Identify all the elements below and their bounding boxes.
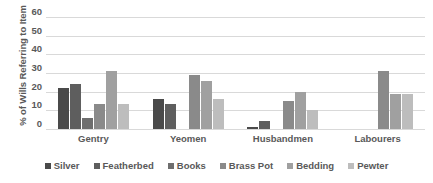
bar-chart: % of Wills Referring to Item 60504030201… xyxy=(0,0,433,183)
y-axis-tick-30: 30 xyxy=(18,63,42,73)
bar-slot xyxy=(307,17,318,129)
bar-slot xyxy=(82,17,93,129)
bar-slot xyxy=(342,17,353,129)
bar-slot xyxy=(283,17,294,129)
gridline-0 xyxy=(46,129,425,130)
legend-label-brass-pot: Brass Pot xyxy=(229,160,273,171)
bar-slot xyxy=(366,17,377,129)
bar-gentry-pewter[interactable] xyxy=(118,104,129,129)
y-axis-tick-60: 60 xyxy=(18,7,42,17)
bar-slot xyxy=(271,17,282,129)
x-axis-category-labels: GentryYeomenHusbandmenLabourers xyxy=(46,133,425,144)
bar-slot xyxy=(378,17,389,129)
bar-groups xyxy=(46,17,425,129)
bar-group-gentry xyxy=(46,17,141,129)
legend-swatch-books xyxy=(168,163,174,169)
legend-item-pewter[interactable]: Pewter xyxy=(348,160,388,171)
bar-slot xyxy=(58,17,69,129)
bar-gentry-silver[interactable] xyxy=(58,88,69,129)
bar-slot xyxy=(94,17,105,129)
x-axis-label-labourers: Labourers xyxy=(330,133,425,144)
bar-gentry-brass-pot[interactable] xyxy=(94,104,105,129)
chart-legend: SilverFeatherbedBooksBrass PotBeddingPew… xyxy=(0,160,433,171)
bar-gentry-books[interactable] xyxy=(82,118,93,129)
legend-swatch-featherbed xyxy=(94,163,100,169)
bar-group-labourers xyxy=(330,17,425,129)
legend-item-books[interactable]: Books xyxy=(168,160,206,171)
bar-slot xyxy=(189,17,200,129)
legend-item-brass-pot[interactable]: Brass Pot xyxy=(220,160,273,171)
bar-yeomen-pewter[interactable] xyxy=(213,99,224,129)
bar-slot xyxy=(70,17,81,129)
legend-swatch-bedding xyxy=(287,163,293,169)
bar-group-yeomen xyxy=(141,17,236,129)
bar-labourers-pewter[interactable] xyxy=(402,94,413,129)
y-axis-tick-40: 40 xyxy=(18,45,42,55)
bar-slot xyxy=(106,17,117,129)
legend-swatch-silver xyxy=(45,163,51,169)
bar-yeomen-silver[interactable] xyxy=(153,99,164,129)
y-axis-tick-20: 20 xyxy=(18,82,42,92)
bar-husbandmen-pewter[interactable] xyxy=(307,110,318,129)
bar-slot xyxy=(259,17,270,129)
bar-yeomen-brass-pot[interactable] xyxy=(189,75,200,129)
bar-yeomen-featherbed[interactable] xyxy=(165,104,176,129)
bar-slot xyxy=(354,17,365,129)
legend-item-bedding[interactable]: Bedding xyxy=(287,160,334,171)
legend-item-featherbed[interactable]: Featherbed xyxy=(94,160,154,171)
legend-label-books: Books xyxy=(177,160,206,171)
y-axis-tick-10: 10 xyxy=(18,101,42,111)
bar-gentry-featherbed[interactable] xyxy=(70,84,81,129)
bar-labourers-brass-pot[interactable] xyxy=(378,71,389,129)
x-axis-label-gentry: Gentry xyxy=(46,133,141,144)
y-axis-tick-50: 50 xyxy=(18,26,42,36)
legend-label-featherbed: Featherbed xyxy=(103,160,154,171)
legend-label-bedding: Bedding xyxy=(296,160,334,171)
bar-slot xyxy=(390,17,401,129)
legend-swatch-pewter xyxy=(348,163,354,169)
x-axis-label-yeomen: Yeomen xyxy=(141,133,236,144)
legend-label-silver: Silver xyxy=(54,160,80,171)
bar-slot xyxy=(201,17,212,129)
bar-slot xyxy=(177,17,188,129)
bar-slot xyxy=(402,17,413,129)
plot-area xyxy=(46,17,425,129)
bar-group-husbandmen xyxy=(236,17,331,129)
legend-swatch-brass-pot xyxy=(220,163,226,169)
bar-husbandmen-brass-pot[interactable] xyxy=(283,101,294,129)
bar-husbandmen-silver[interactable] xyxy=(247,127,258,129)
x-axis-label-husbandmen: Husbandmen xyxy=(236,133,331,144)
bar-slot xyxy=(165,17,176,129)
bar-slot xyxy=(295,17,306,129)
bar-slot xyxy=(213,17,224,129)
bar-slot xyxy=(153,17,164,129)
y-axis-tick-0: 0 xyxy=(18,119,42,129)
bar-gentry-bedding[interactable] xyxy=(106,71,117,129)
legend-item-silver[interactable]: Silver xyxy=(45,160,80,171)
bar-slot xyxy=(247,17,258,129)
legend-label-pewter: Pewter xyxy=(357,160,388,171)
bar-husbandmen-featherbed[interactable] xyxy=(259,121,270,129)
bar-husbandmen-bedding[interactable] xyxy=(295,92,306,129)
bar-labourers-bedding[interactable] xyxy=(390,94,401,129)
y-axis-tick-labels: 6050403020100 xyxy=(18,12,42,124)
bar-slot xyxy=(118,17,129,129)
bar-yeomen-bedding[interactable] xyxy=(201,81,212,129)
